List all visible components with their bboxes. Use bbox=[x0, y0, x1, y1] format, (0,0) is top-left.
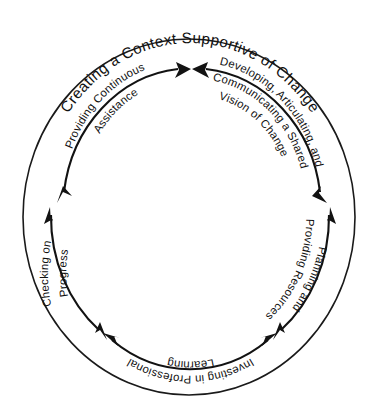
svg-text:Assistance: Assistance bbox=[91, 86, 140, 136]
svg-text:Providing Resources: Providing Resources bbox=[264, 219, 317, 323]
arrowhead-upper-right-bottom bbox=[312, 186, 327, 203]
label-checking-progress-line2: Progress bbox=[56, 248, 70, 298]
svg-text:Learning: Learning bbox=[166, 357, 215, 372]
segment-label-planning-resources: Planning and Providing Resources bbox=[264, 219, 329, 323]
cycle-diagram-svg: Creating a Context Supportive of Change bbox=[0, 0, 380, 413]
arrowhead-left-bottom bbox=[95, 322, 107, 340]
diagram-canvas: Creating a Context Supportive of Change bbox=[0, 0, 380, 413]
label-providing-assistance-line2: Assistance bbox=[91, 86, 140, 136]
label-planning-resources-line2: Providing Resources bbox=[264, 219, 317, 323]
svg-text:Progress: Progress bbox=[56, 248, 70, 298]
svg-text:Checking on: Checking on bbox=[38, 239, 53, 307]
arrowhead-right-bottom bbox=[273, 322, 285, 340]
label-checking-progress-line1: Checking on bbox=[38, 239, 53, 307]
label-investing-learning-line2: Learning bbox=[166, 357, 215, 372]
arrowhead-upper-left-bottom bbox=[57, 186, 72, 203]
